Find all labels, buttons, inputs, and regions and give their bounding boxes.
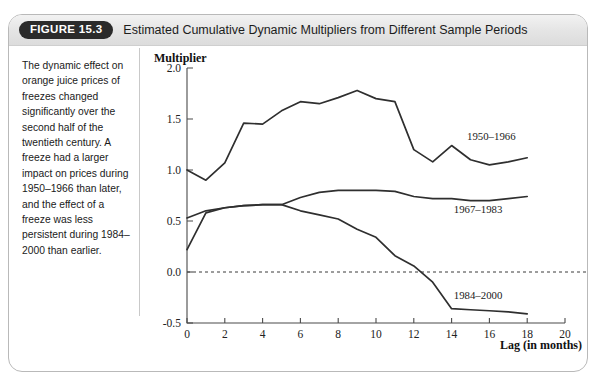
y-tick-label: 0.5 <box>167 215 182 227</box>
x-tick-label: 10 <box>370 328 382 340</box>
chart-plot-area: 02468101214161820 -0.50.00.51.01.52.0 19… <box>134 46 588 372</box>
figure-caption: The dynamic effect on orange juice price… <box>22 58 134 258</box>
series-annotation-group: 1950–19661967–19831984–2000 <box>454 130 516 300</box>
figure-body: The dynamic effect on orange juice price… <box>9 46 587 371</box>
y-tick-label: -0.5 <box>163 317 181 329</box>
multiplier-line-chart: 02468101214161820 -0.50.00.51.01.52.0 19… <box>134 46 588 372</box>
y-tick-label: 0.0 <box>167 266 182 278</box>
x-tick-label: 14 <box>446 328 458 340</box>
series-label: 1984–2000 <box>454 289 503 301</box>
figure-panel: FIGURE 15.3 Estimated Cumulative Dynamic… <box>8 14 588 372</box>
series-label: 1967–1983 <box>454 203 503 215</box>
y-axis-title: Multiplier <box>154 51 207 65</box>
y-tick-label-group: -0.50.00.51.01.52.0 <box>163 62 181 329</box>
x-tick-label: 0 <box>184 328 190 340</box>
x-tick-label: 12 <box>408 328 420 340</box>
y-tick-label: 1.0 <box>167 164 182 176</box>
x-tick-label: 6 <box>298 328 304 340</box>
y-tick-group <box>187 68 193 323</box>
x-axis-title: Lag (in months) <box>500 338 582 352</box>
x-tick-label: 4 <box>260 328 266 340</box>
series-label: 1950–1966 <box>467 130 516 142</box>
y-tick-label: 1.5 <box>167 113 182 125</box>
figure-header: FIGURE 15.3 Estimated Cumulative Dynamic… <box>9 15 587 46</box>
x-tick-group <box>187 318 565 323</box>
x-tick-label: 8 <box>335 328 341 340</box>
x-tick-label: 2 <box>222 328 228 340</box>
figure-number-badge: FIGURE 15.3 <box>19 21 113 40</box>
figure-title: Estimated Cumulative Dynamic Multipliers… <box>123 23 527 37</box>
x-tick-label: 16 <box>484 328 496 340</box>
axis-group <box>187 68 565 323</box>
